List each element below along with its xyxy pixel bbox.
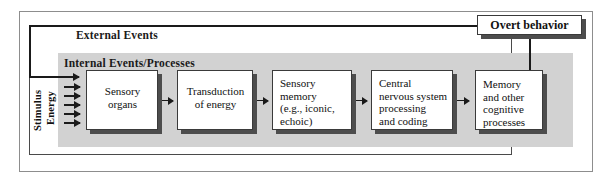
stage-line: processing	[379, 102, 446, 115]
stage-line: Sensory	[94, 85, 151, 98]
stimulus-energy-arrow-1	[64, 86, 80, 88]
stage-line: Central	[379, 77, 446, 90]
stage-box-sensory-organs: Sensory organs	[86, 70, 158, 130]
stage-line: of energy	[185, 98, 246, 111]
stage-box-sensory-memory: Sensory memory (e.g., iconic, echoic)	[272, 70, 352, 130]
stage-line: Transduction	[185, 85, 246, 98]
information-processing-diagram: External Events Internal Events/Processe…	[0, 0, 613, 183]
stimulus-label: Stimulus	[32, 90, 43, 131]
stage-line: memory	[280, 90, 345, 103]
stage-line: and coding	[379, 115, 446, 128]
stage-line: echoic)	[280, 115, 345, 128]
stage-box-transduction: Transduction of energy	[177, 70, 253, 130]
connector-arrow-sensory-memory-to-cns	[356, 100, 367, 101]
connector-arrow-transduction-to-sensory-memory	[257, 100, 268, 101]
stage-line: Sensory	[280, 77, 345, 90]
stage-line: cognitive	[483, 103, 536, 116]
connector-arrow-memory-to-overt-behavior	[529, 35, 531, 70]
connector-arrow-sensory-organs-to-transduction	[162, 100, 173, 101]
stimulus-energy-arrow-5	[64, 122, 80, 124]
stimulus-energy-arrow-4	[64, 113, 80, 115]
stage-line: processes	[483, 116, 536, 129]
connector-arrow-cns-to-memory	[457, 100, 469, 101]
internal-events-label: Internal Events/Processes	[64, 57, 195, 69]
stage-line: Memory	[483, 78, 536, 91]
stage-line: and other	[483, 91, 536, 104]
overt-behavior-box: Overt behavior	[477, 15, 582, 35]
stage-line: (e.g., iconic,	[280, 102, 345, 115]
feedback-arrow-into-sensory-organs	[29, 76, 79, 78]
external-events-label: External Events	[76, 29, 158, 41]
feedback-left-segment	[29, 25, 31, 77]
stimulus-energy-arrow-3	[64, 104, 80, 106]
stage-line: organs	[94, 98, 151, 111]
stage-line: nervous system	[379, 90, 446, 103]
stage-box-central-nervous-system: Central nervous system processing and co…	[371, 70, 453, 130]
feedback-top-segment	[29, 25, 479, 27]
stage-box-memory-and-other-cognitive-processes: Memory and other cognitive processes	[475, 70, 543, 130]
energy-label: Energy	[45, 91, 56, 125]
stimulus-energy-arrow-2	[64, 95, 80, 97]
